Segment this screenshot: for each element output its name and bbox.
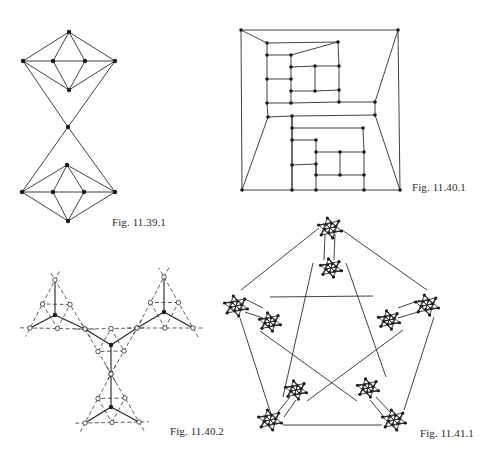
edge <box>338 42 339 66</box>
vertex <box>337 64 341 68</box>
cluster-vertex <box>390 328 393 331</box>
cluster-vertex <box>391 322 394 325</box>
cluster-vertex <box>404 421 407 424</box>
cluster-vertex <box>321 273 324 276</box>
edge <box>241 30 242 190</box>
open-vertex <box>109 372 113 376</box>
cluster-vertex <box>365 391 368 394</box>
cluster-vertex <box>263 420 266 423</box>
cluster-vertex <box>305 391 308 394</box>
cluster-vertex <box>374 380 377 383</box>
cluster-vertex <box>273 320 276 323</box>
vertex <box>265 101 269 105</box>
cluster-vertex <box>337 219 340 222</box>
cluster-vertex <box>319 264 322 267</box>
cluster-vertex <box>356 384 359 387</box>
cluster-vertex <box>266 311 269 314</box>
hub-vertex <box>109 343 113 347</box>
cluster-vertex <box>437 306 440 309</box>
cluster-vertex <box>334 226 337 229</box>
fig-11-40-1-graph <box>239 28 402 192</box>
bridge-edge <box>278 397 290 412</box>
cluster-vertex <box>267 325 270 328</box>
cluster-vertex <box>368 382 371 385</box>
vertex <box>361 126 365 130</box>
edge <box>291 66 315 67</box>
vertex <box>265 77 269 81</box>
spoke <box>111 407 139 422</box>
cluster-vertex <box>392 318 395 321</box>
edge <box>267 42 338 43</box>
bridge-edge <box>398 312 418 318</box>
vertex <box>398 188 402 192</box>
vertex <box>65 163 69 167</box>
caption-fig-11-40-2: Fig. 11.40.2 <box>170 425 224 437</box>
edge <box>268 116 292 117</box>
edge <box>69 61 85 90</box>
dashed-edge <box>112 398 125 423</box>
cluster-vertex <box>386 323 389 326</box>
open-vertex <box>110 420 114 424</box>
dashed-edge <box>98 399 112 423</box>
cluster-vertex <box>381 415 384 418</box>
edge <box>68 127 115 192</box>
cluster-vertex <box>328 271 331 274</box>
spoke <box>30 315 55 328</box>
open-vertex <box>55 326 59 330</box>
cluster-vertex <box>364 377 367 380</box>
dashed-edge <box>111 329 124 352</box>
cluster-vertex <box>237 314 240 317</box>
cluster-vertex <box>243 297 246 300</box>
cluster-vertex <box>272 324 275 327</box>
open-vertex <box>148 300 152 304</box>
vertex <box>290 188 294 192</box>
edge <box>23 32 69 61</box>
vertex <box>289 77 293 81</box>
cluster-vertex <box>265 318 268 321</box>
edge <box>292 115 375 116</box>
vertex <box>290 138 294 142</box>
cluster-vertex <box>394 414 397 417</box>
open-vertex <box>109 326 113 330</box>
edge <box>315 90 339 91</box>
cluster-vertex <box>226 311 229 314</box>
vertex <box>289 89 293 93</box>
vertex <box>265 53 269 57</box>
vertex <box>66 125 70 129</box>
outer-edge <box>240 318 271 414</box>
cluster-vertex <box>417 310 420 313</box>
edge <box>363 128 364 152</box>
cluster-vertex <box>331 262 334 265</box>
cluster-vertex <box>297 398 300 401</box>
open-vertex <box>53 278 57 282</box>
cluster-vertex <box>377 389 380 392</box>
star-edge <box>346 263 386 377</box>
cluster-vertex <box>238 308 241 311</box>
open-vertex <box>40 302 44 306</box>
cluster-vertex <box>434 296 437 299</box>
cluster-vertex <box>358 393 361 396</box>
vertex <box>290 114 294 118</box>
cluster-vertex <box>379 325 382 328</box>
open-vertex <box>83 327 87 331</box>
cluster-vertex <box>385 309 388 312</box>
open-vertex <box>135 326 139 330</box>
cluster-vertex <box>387 420 390 423</box>
cluster-vertex <box>265 415 268 418</box>
edge <box>291 42 338 55</box>
cluster-vertex <box>334 266 337 269</box>
spoke <box>85 407 111 423</box>
cluster-vertex <box>271 428 274 431</box>
cluster-vertex <box>260 327 263 330</box>
cluster-vertex <box>325 223 328 226</box>
vertex <box>362 173 366 177</box>
cluster-vertex <box>223 301 226 304</box>
cluster-vertex <box>398 418 401 421</box>
cluster-vertex <box>424 308 427 311</box>
cluster-vertex <box>332 230 335 233</box>
cluster-vertex <box>257 415 260 418</box>
vertex <box>336 40 340 44</box>
hub-vertex <box>53 313 57 317</box>
cluster-vertex <box>236 300 239 303</box>
cluster-vertex <box>414 300 417 303</box>
